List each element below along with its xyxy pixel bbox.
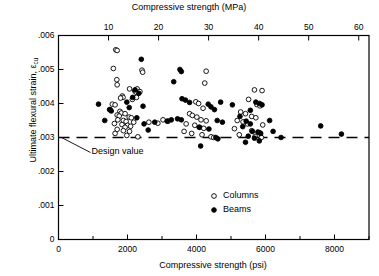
legend-marker-columns [212, 194, 217, 199]
data-point [201, 126, 206, 131]
data-point [250, 129, 255, 134]
data-point [111, 66, 116, 71]
data-point [113, 103, 118, 108]
data-point [260, 103, 265, 108]
data-point [141, 104, 146, 109]
x-tick-label-bottom: 6000 [256, 244, 275, 254]
data-point [96, 102, 101, 107]
x-tick-label-top: 60 [354, 22, 363, 32]
data-point [252, 88, 257, 93]
data-point [212, 107, 217, 112]
data-point [238, 110, 243, 115]
data-point [243, 111, 248, 116]
data-point [171, 79, 176, 84]
data-point [109, 109, 114, 114]
data-point [216, 137, 221, 142]
data-point [243, 140, 248, 145]
data-point [118, 96, 123, 101]
data-point [204, 118, 209, 123]
data-point [182, 129, 187, 134]
data-point [218, 100, 223, 105]
data-point [339, 132, 344, 137]
x-tick-label-bottom: 2000 [118, 244, 137, 254]
legend-label-beams: Beams [223, 204, 251, 214]
data-point [252, 136, 257, 141]
x-tick-label-top: 10 [104, 22, 113, 32]
data-point [246, 97, 251, 102]
data-point [215, 118, 220, 123]
y-tick-label: .005 [38, 64, 55, 74]
data-point [130, 95, 135, 100]
data-point [134, 115, 139, 120]
y-tick-label: 0 [50, 234, 55, 244]
data-point [192, 123, 197, 128]
legend-label-columns: Columns [223, 190, 259, 200]
data-point [137, 91, 142, 96]
y-tick-label: .004 [38, 98, 55, 108]
data-point [147, 120, 152, 125]
data-point [271, 129, 276, 134]
data-point [260, 123, 265, 128]
data-point [142, 122, 147, 127]
x-tick-label-top: 40 [254, 22, 263, 32]
x-tick-label-bottom: 0 [56, 244, 61, 254]
data-point [139, 57, 144, 62]
data-point [129, 115, 134, 120]
data-point [230, 103, 235, 108]
data-point [220, 120, 225, 125]
data-point [127, 105, 132, 110]
design-value-leader [62, 138, 91, 153]
data-point [136, 134, 141, 139]
data-point [238, 114, 243, 119]
data-point [146, 128, 151, 133]
x-tick-label-top: 30 [204, 22, 213, 32]
data-point [152, 120, 157, 125]
data-point [112, 121, 117, 126]
data-point [232, 126, 237, 131]
data-point [204, 69, 209, 74]
data-point [115, 82, 120, 87]
data-point [202, 81, 207, 86]
data-point [113, 131, 118, 136]
series-beams [96, 57, 344, 148]
data-point [260, 88, 265, 93]
data-point [187, 100, 192, 105]
y-tick-label: .001 [38, 200, 55, 210]
data-point [127, 87, 132, 92]
data-point [237, 132, 242, 137]
data-point [207, 127, 212, 132]
data-point [198, 144, 203, 149]
plot-canvas [0, 0, 379, 276]
x-tick-label-bottom: 4000 [187, 244, 206, 254]
data-point [179, 117, 184, 122]
data-point [279, 135, 284, 140]
data-point [253, 115, 258, 120]
legend-marker-beams [212, 208, 217, 213]
data-point [124, 100, 129, 105]
data-point [248, 122, 253, 127]
y-tick-label: .003 [38, 132, 55, 142]
data-point [199, 117, 204, 122]
data-point [267, 118, 272, 123]
data-point [128, 124, 133, 129]
data-point [114, 77, 119, 82]
x-tick-label-top: 20 [154, 22, 163, 32]
data-point [179, 69, 184, 74]
data-point [123, 111, 128, 116]
data-point [201, 106, 206, 111]
data-point [189, 131, 194, 136]
data-point [140, 70, 145, 75]
data-point [246, 134, 251, 139]
data-point [102, 118, 107, 123]
data-point [200, 132, 205, 137]
data-point [248, 108, 253, 113]
data-point [115, 48, 120, 53]
data-point [257, 139, 262, 144]
data-point [124, 133, 129, 138]
data-point [121, 128, 126, 133]
y-tick-label: .006 [38, 30, 55, 40]
data-point [197, 125, 202, 130]
x-tick-label-bottom: 8000 [325, 244, 344, 254]
chart-figure: Ultimate flexural strain, εcu Compressiv… [0, 0, 379, 276]
data-point [240, 124, 245, 129]
